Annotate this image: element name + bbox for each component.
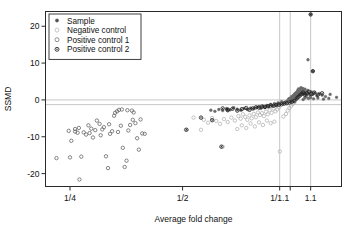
- data-point: [77, 126, 80, 129]
- data-point: [70, 139, 73, 142]
- data-point: [55, 156, 58, 159]
- data-point: [309, 96, 312, 99]
- legend: SampleNegative controlPositive control 1…: [49, 14, 141, 59]
- data-point: [335, 96, 338, 99]
- data-point: [215, 119, 218, 122]
- x-tick-label: 1/1.1: [270, 193, 289, 203]
- data-point: [304, 88, 307, 91]
- data-point: [257, 121, 260, 124]
- data-point: [68, 156, 71, 159]
- data-point: [254, 116, 257, 119]
- data-point: [324, 95, 327, 98]
- data-point: [82, 131, 85, 134]
- data-point: [329, 93, 332, 96]
- data-point: [241, 113, 244, 116]
- data-point: [237, 114, 240, 117]
- data-point: [116, 130, 119, 133]
- legend-label: Negative control: [67, 26, 126, 35]
- x-tick-label: 1/4: [64, 193, 76, 203]
- data-point: [249, 122, 252, 125]
- data-point: [248, 114, 251, 117]
- data-point: [245, 126, 248, 129]
- data-point: [222, 117, 225, 120]
- plot-canvas: 20100-10-201/41/21/1.11.1 Average fold c…: [0, 0, 354, 234]
- data-point: [236, 127, 239, 130]
- legend-marker-filled-dot: [55, 19, 58, 22]
- data-point: [327, 97, 330, 100]
- data-point: [226, 120, 229, 123]
- y-axis-title: SSMD: [3, 87, 13, 112]
- data-point: [137, 148, 140, 151]
- data-point: [87, 124, 90, 127]
- data-point: [230, 116, 233, 119]
- data-point: [91, 136, 94, 139]
- x-tick-label: 1.1: [305, 193, 317, 203]
- legend-label: Positive control 2: [67, 45, 130, 54]
- data-point: [211, 118, 214, 121]
- scatter-plot-figure: 20100-10-201/41/21/1.11.1 Average fold c…: [0, 0, 354, 234]
- series-sample: [209, 13, 337, 113]
- data-point: [199, 128, 202, 131]
- data-point: [213, 110, 216, 113]
- data-point: [107, 123, 110, 126]
- data-point: [307, 58, 310, 61]
- data-point: [135, 137, 138, 140]
- data-point: [131, 118, 134, 121]
- data-point: [312, 97, 315, 100]
- legend-label: Positive control 1: [67, 36, 130, 45]
- data-point: [90, 127, 93, 130]
- data-point: [95, 119, 98, 122]
- data-point: [104, 155, 107, 158]
- data-point: [316, 97, 319, 100]
- data-point: [128, 123, 131, 126]
- data-point: [209, 109, 212, 112]
- data-point: [88, 131, 91, 134]
- y-tick-label: 0: [35, 95, 40, 105]
- data-point: [217, 108, 220, 111]
- data-point: [233, 119, 236, 122]
- data-point: [134, 121, 137, 124]
- data-point: [268, 109, 271, 112]
- data-point: [94, 128, 97, 131]
- y-tick-label: -10: [27, 132, 40, 142]
- data-point: [322, 98, 325, 101]
- data-point: [199, 116, 202, 119]
- data-point: [78, 178, 81, 181]
- data-point: [256, 111, 259, 114]
- data-point: [139, 118, 142, 121]
- data-point: [261, 123, 264, 126]
- data-point: [127, 129, 130, 132]
- data-point: [98, 122, 101, 125]
- data-point: [265, 119, 268, 122]
- x-axis-title: Average fold change: [155, 214, 233, 224]
- data-point: [106, 166, 109, 169]
- data-point: [253, 125, 256, 128]
- data-point: [126, 109, 129, 112]
- data-point: [67, 129, 70, 132]
- data-point: [121, 146, 124, 149]
- legend-label: Sample: [67, 17, 95, 26]
- data-point: [192, 116, 195, 119]
- data-point: [110, 130, 113, 133]
- data-point: [119, 124, 122, 127]
- data-point: [264, 110, 267, 113]
- y-tick-label: 20: [30, 21, 40, 31]
- axis-labels: Average fold changeSSMD: [3, 87, 233, 224]
- data-point: [206, 121, 209, 124]
- data-point: [273, 120, 276, 123]
- data-point: [125, 159, 128, 162]
- data-point: [123, 165, 126, 168]
- data-point: [269, 121, 272, 124]
- data-point: [99, 134, 102, 137]
- y-tick-label: -20: [27, 169, 40, 179]
- data-point: [284, 112, 287, 115]
- data-point: [252, 112, 255, 115]
- data-point: [218, 122, 221, 125]
- y-tick-label: 10: [30, 58, 40, 68]
- data-point: [240, 124, 243, 127]
- x-tick-label: 1/2: [177, 193, 189, 203]
- data-point: [80, 155, 83, 158]
- series-positive-control-1: [55, 108, 147, 181]
